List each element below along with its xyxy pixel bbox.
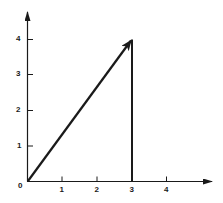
x-tick-label-4: 4: [164, 186, 168, 194]
y-ticks: [28, 40, 34, 147]
vector-diagram: 0 1 2 3 4 1 2 3 4: [0, 0, 223, 203]
x-tick-label-3: 3: [130, 186, 134, 194]
x-ticks: [62, 177, 167, 182]
x-tick-label-2: 2: [95, 186, 99, 194]
y-tick-label-3: 3: [16, 70, 20, 78]
diagram-graphics: [0, 0, 223, 203]
x-tick-label-1: 1: [60, 186, 64, 194]
y-tick-label-1: 1: [17, 142, 21, 150]
y-tick-label-4: 4: [16, 35, 20, 43]
origin-label: 0: [18, 182, 22, 190]
y-tick-label-2: 2: [16, 106, 20, 114]
vector-arrow: [28, 41, 131, 182]
